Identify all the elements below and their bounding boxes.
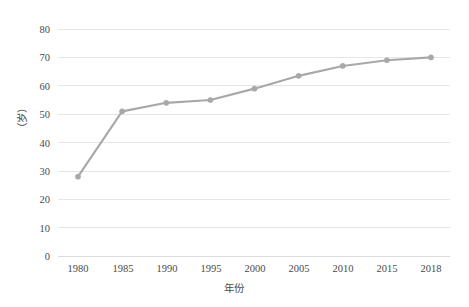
y-axis-title: （岁） bbox=[16, 103, 28, 133]
series-line bbox=[78, 57, 431, 176]
x-tick-label: 2000 bbox=[245, 263, 266, 274]
x-tick-label: 1980 bbox=[68, 263, 89, 274]
y-tick-label: 30 bbox=[40, 166, 51, 177]
y-tick-label: 50 bbox=[40, 109, 51, 120]
y-tick-label: 40 bbox=[40, 138, 51, 149]
y-tick-label: 70 bbox=[40, 52, 51, 63]
series-markers bbox=[75, 55, 433, 179]
gridlines bbox=[58, 29, 450, 256]
data-point-marker bbox=[208, 97, 213, 102]
data-point-marker bbox=[340, 63, 345, 68]
data-point-marker bbox=[428, 55, 433, 60]
x-tick-label: 2018 bbox=[421, 263, 442, 274]
data-point-marker bbox=[75, 174, 80, 179]
x-tick-label: 2015 bbox=[377, 263, 398, 274]
x-tick-label: 2005 bbox=[289, 263, 310, 274]
x-axis-title: 年份 bbox=[224, 282, 245, 294]
data-point-marker bbox=[252, 86, 257, 91]
x-axis-tick-labels: 1980 1985 1990 1995 2000 2005 2010 2015 … bbox=[68, 263, 442, 274]
x-tick-label: 1985 bbox=[113, 263, 134, 274]
line-chart: 80 70 60 50 40 30 20 10 0 （岁） 1980 1985 … bbox=[0, 0, 469, 307]
x-tick-label: 1995 bbox=[201, 263, 222, 274]
y-tick-label: 10 bbox=[40, 223, 51, 234]
chart-canvas: 80 70 60 50 40 30 20 10 0 （岁） 1980 1985 … bbox=[0, 0, 469, 307]
y-tick-label: 60 bbox=[40, 81, 51, 92]
y-tick-label: 0 bbox=[45, 251, 50, 262]
x-tick-label: 1990 bbox=[157, 263, 178, 274]
data-point-marker bbox=[164, 100, 169, 105]
data-point-marker bbox=[120, 109, 125, 114]
data-point-marker bbox=[296, 73, 301, 78]
y-axis-tick-labels: 80 70 60 50 40 30 20 10 0 bbox=[40, 24, 51, 262]
data-point-marker bbox=[384, 58, 389, 63]
data-series bbox=[75, 55, 433, 179]
y-tick-label: 20 bbox=[40, 194, 51, 205]
y-tick-label: 80 bbox=[40, 24, 51, 35]
x-tick-label: 2010 bbox=[333, 263, 354, 274]
